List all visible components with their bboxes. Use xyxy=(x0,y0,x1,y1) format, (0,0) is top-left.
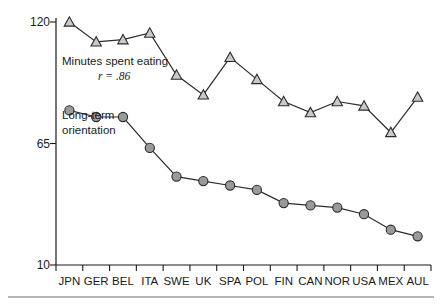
data-point-spa xyxy=(225,52,235,61)
annotation-minutes-spent-eating: Minutes spent eating xyxy=(62,55,168,67)
data-point-spa xyxy=(226,181,235,190)
data-point-mex xyxy=(386,225,395,234)
data-point-bel xyxy=(118,112,127,121)
x-category-label-ger: GER xyxy=(84,275,109,287)
data-point-nor xyxy=(333,203,342,212)
series-long-term-orientation xyxy=(65,106,422,241)
chart-figure: 120 65 10 JPNGERBELITASWEUKSPAPOLFINCANN… xyxy=(0,0,440,307)
data-point-uk xyxy=(199,177,208,186)
data-point-jpn xyxy=(64,17,74,26)
data-point-pol xyxy=(252,185,261,194)
data-point-can xyxy=(306,201,315,210)
y-axis-ticks xyxy=(50,22,56,265)
data-point-aul xyxy=(412,92,422,101)
x-category-label-bel: BEL xyxy=(112,275,134,287)
data-point-uk xyxy=(198,90,208,99)
data-point-ita xyxy=(145,28,155,37)
x-category-label-nor: NOR xyxy=(324,275,350,287)
data-point-can xyxy=(305,107,315,116)
x-category-label-swe: SWE xyxy=(163,275,190,287)
x-category-label-ita: ITA xyxy=(141,275,158,287)
data-point-swe xyxy=(171,70,181,79)
y-tick-label-mid: 65 xyxy=(37,137,51,151)
x-category-label-fin: FIN xyxy=(274,275,293,287)
x-category-label-can: CAN xyxy=(298,275,322,287)
x-category-label-pol: POL xyxy=(245,275,269,287)
data-point-ita xyxy=(145,143,154,152)
annotation-correlation-r: r = .86 xyxy=(98,70,131,82)
y-tick-label-bottom: 10 xyxy=(37,258,51,272)
x-category-label-aul: AUL xyxy=(406,275,429,287)
annotation-long-term-line2: orientation xyxy=(62,124,116,136)
x-category-label-uk: UK xyxy=(195,275,211,287)
data-point-aul xyxy=(413,232,422,241)
x-axis-ticks xyxy=(56,265,431,271)
annotation-long-term-line1: Long-term xyxy=(62,109,114,121)
data-point-nor xyxy=(332,96,342,105)
x-category-label-usa: USA xyxy=(352,275,376,287)
x-axis-category-labels: JPNGERBELITASWEUKSPAPOLFINCANNORUSAMEXAU… xyxy=(59,275,430,287)
y-tick-label-top: 120 xyxy=(30,15,50,29)
x-category-label-jpn: JPN xyxy=(59,275,81,287)
chart-series-layer xyxy=(64,17,423,241)
line-chart: 120 65 10 JPNGERBELITASWEUKSPAPOLFINCANN… xyxy=(0,0,440,307)
x-category-label-spa: SPA xyxy=(219,275,241,287)
x-category-label-mex: MEX xyxy=(378,275,403,287)
data-point-usa xyxy=(359,210,368,219)
data-point-swe xyxy=(172,172,181,181)
data-point-fin xyxy=(279,199,288,208)
